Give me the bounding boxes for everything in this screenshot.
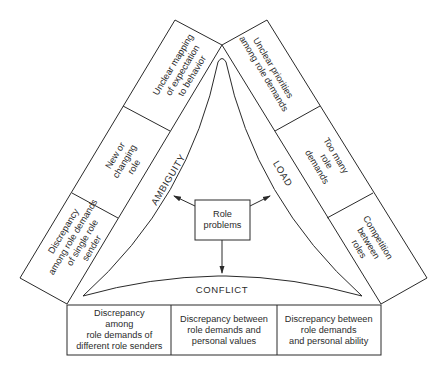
conflict-label: CONFLICT (186, 284, 258, 295)
role-problems-box: Role problems (195, 200, 250, 240)
conflict-item-different-senders: Discrepancy among role demands of differ… (67, 305, 172, 355)
conflict-boxes: Discrepancy among role demands of differ… (67, 305, 381, 355)
conflict-item-personal-values: Discrepancy between role demands and per… (172, 305, 277, 355)
role-problems-label: Role problems (204, 209, 242, 231)
role-problems-diagram: Role problems AMBIGUITY LOAD CONFLICT Un… (0, 0, 444, 373)
conflict-item-personal-ability: Discrepancy between role demands and per… (276, 305, 381, 355)
